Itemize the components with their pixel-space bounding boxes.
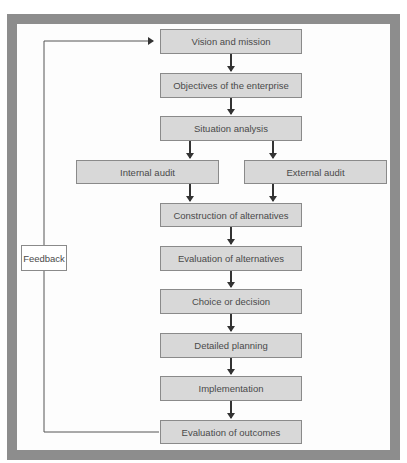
node-choice-or-decision: Choice or decision [160, 289, 302, 314]
node-external-audit: External audit [244, 160, 387, 184]
node-label: Construction of alternatives [173, 210, 288, 221]
node-label: Evaluation of alternatives [178, 253, 284, 264]
node-vision-and-mission: Vision and mission [160, 29, 302, 54]
node-internal-audit: Internal audit [76, 160, 219, 184]
node-label: Objectives of the enterprise [173, 80, 289, 91]
node-label: Detailed planning [194, 340, 267, 351]
node-construction-of-alternatives: Construction of alternatives [160, 203, 302, 227]
node-label: External audit [286, 167, 344, 178]
node-label: Choice or decision [192, 296, 270, 307]
node-evaluation-of-outcomes: Evaluation of outcomes [160, 420, 302, 444]
node-label: Implementation [199, 383, 264, 394]
feedback-label: Feedback [23, 253, 65, 264]
node-label: Situation analysis [194, 123, 268, 134]
node-situation-analysis: Situation analysis [160, 116, 302, 141]
node-detailed-planning: Detailed planning [160, 333, 302, 358]
node-implementation: Implementation [160, 376, 302, 401]
node-label: Vision and mission [191, 36, 270, 47]
feedback-label-box: Feedback [21, 245, 67, 271]
node-label: Evaluation of outcomes [182, 427, 281, 438]
node-label: Internal audit [120, 167, 175, 178]
node-objectives: Objectives of the enterprise [160, 73, 302, 98]
node-evaluation-of-alternatives: Evaluation of alternatives [160, 246, 302, 271]
